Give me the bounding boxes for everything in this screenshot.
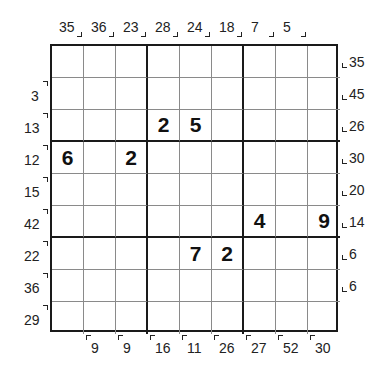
cell-r4c7[interactable]	[244, 142, 276, 174]
cell-r7c7[interactable]	[244, 238, 276, 270]
cell-r7c1[interactable]	[52, 238, 84, 270]
cell-r6c8[interactable]	[276, 206, 308, 238]
cell-r6c7[interactable]: 4	[244, 206, 276, 238]
clue-right-8: 6	[349, 278, 357, 294]
cell-r3c3[interactable]	[116, 110, 148, 142]
cell-r5c4[interactable]	[148, 174, 180, 206]
cell-r8c5[interactable]	[180, 270, 212, 302]
cell-r3c2[interactable]	[84, 110, 116, 142]
cell-r5c9[interactable]	[308, 174, 340, 206]
clue-right-2: 45	[349, 86, 365, 102]
cell-r5c1[interactable]	[52, 174, 84, 206]
cell-r5c5[interactable]	[180, 174, 212, 206]
clue-right-4: 30	[349, 150, 365, 166]
cell-r1c3[interactable]	[116, 46, 148, 78]
cell-r3c7[interactable]	[244, 110, 276, 142]
cell-r6c2[interactable]	[84, 206, 116, 238]
cell-r5c7[interactable]	[244, 174, 276, 206]
cell-r9c2[interactable]	[84, 302, 116, 334]
cell-r8c3[interactable]	[116, 270, 148, 302]
cell-r4c9[interactable]	[308, 142, 340, 174]
cell-r7c4[interactable]	[148, 238, 180, 270]
clue-top-7: 7	[251, 19, 259, 35]
cell-r6c3[interactable]	[116, 206, 148, 238]
cell-r4c3[interactable]: 2	[116, 142, 148, 174]
clue-bottom-3: 9	[123, 340, 131, 356]
clue-arrow-icon	[150, 335, 155, 340]
cell-r3c1[interactable]	[52, 110, 84, 142]
cell-r1c7[interactable]	[244, 46, 276, 78]
cell-r3c8[interactable]	[276, 110, 308, 142]
cell-r8c9[interactable]	[308, 270, 340, 302]
cell-r9c5[interactable]	[180, 302, 212, 334]
cell-r6c6[interactable]	[212, 206, 244, 238]
cell-r3c9[interactable]	[308, 110, 340, 142]
cell-r3c6[interactable]	[212, 110, 244, 142]
cell-r7c9[interactable]	[308, 238, 340, 270]
cell-r2c4[interactable]	[148, 78, 180, 110]
cell-r8c8[interactable]	[276, 270, 308, 302]
cell-r8c2[interactable]	[84, 270, 116, 302]
cell-r6c4[interactable]	[148, 206, 180, 238]
cell-r2c9[interactable]	[308, 78, 340, 110]
cell-r5c3[interactable]	[116, 174, 148, 206]
cell-r4c6[interactable]	[212, 142, 244, 174]
cell-r2c7[interactable]	[244, 78, 276, 110]
cell-r4c2[interactable]	[84, 142, 116, 174]
cell-r2c8[interactable]	[276, 78, 308, 110]
cell-r2c2[interactable]	[84, 78, 116, 110]
clue-bottom-2: 9	[91, 340, 99, 356]
cell-r1c9[interactable]	[308, 46, 340, 78]
cell-r3c4[interactable]: 2	[148, 110, 180, 142]
clue-bottom-7: 27	[251, 340, 267, 356]
cell-r7c8[interactable]	[276, 238, 308, 270]
cell-r9c9[interactable]	[308, 302, 340, 334]
cell-r9c8[interactable]	[276, 302, 308, 334]
cell-r9c1[interactable]	[52, 302, 84, 334]
cell-r6c5[interactable]	[180, 206, 212, 238]
cell-r2c6[interactable]	[212, 78, 244, 110]
cell-r5c2[interactable]	[84, 174, 116, 206]
cell-r6c1[interactable]	[52, 206, 84, 238]
cell-r4c1[interactable]: 6	[52, 142, 84, 174]
cell-r9c3[interactable]	[116, 302, 148, 334]
clue-arrow-icon	[269, 32, 274, 37]
cell-r2c1[interactable]	[52, 78, 84, 110]
cell-r1c2[interactable]	[84, 46, 116, 78]
cell-r8c6[interactable]	[212, 270, 244, 302]
cell-r2c5[interactable]	[180, 78, 212, 110]
cell-r8c7[interactable]	[244, 270, 276, 302]
clue-arrow-icon	[77, 32, 82, 37]
cell-r7c3[interactable]	[116, 238, 148, 270]
cell-r4c4[interactable]	[148, 142, 180, 174]
cell-r4c5[interactable]	[180, 142, 212, 174]
cell-r2c3[interactable]	[116, 78, 148, 110]
clue-arrow-icon	[86, 335, 91, 340]
cell-r1c5[interactable]	[180, 46, 212, 78]
cell-r8c4[interactable]	[148, 270, 180, 302]
cell-r1c8[interactable]	[276, 46, 308, 78]
cell-r4c8[interactable]	[276, 142, 308, 174]
cell-r6c9[interactable]: 9	[308, 206, 340, 238]
clue-right-5: 20	[349, 182, 365, 198]
cell-r7c2[interactable]	[84, 238, 116, 270]
clue-arrow-icon	[141, 32, 146, 37]
cell-r5c8[interactable]	[276, 174, 308, 206]
clue-arrow-icon	[43, 81, 48, 86]
cell-r7c5[interactable]: 7	[180, 238, 212, 270]
cell-r1c6[interactable]	[212, 46, 244, 78]
cell-r8c1[interactable]	[52, 270, 84, 302]
cell-r7c6[interactable]: 2	[212, 238, 244, 270]
cell-r9c6[interactable]	[212, 302, 244, 334]
clue-top-1: 35	[59, 19, 75, 35]
clue-arrow-icon	[342, 255, 347, 260]
cell-r9c4[interactable]	[148, 302, 180, 334]
cell-r5c6[interactable]	[212, 174, 244, 206]
cell-r1c1[interactable]	[52, 46, 84, 78]
cell-r1c4[interactable]	[148, 46, 180, 78]
clue-bottom-4: 16	[155, 340, 171, 356]
clue-right-3: 26	[349, 118, 365, 134]
cell-r3c5[interactable]: 5	[180, 110, 212, 142]
cell-r9c7[interactable]	[244, 302, 276, 334]
clue-arrow-icon	[43, 113, 48, 118]
